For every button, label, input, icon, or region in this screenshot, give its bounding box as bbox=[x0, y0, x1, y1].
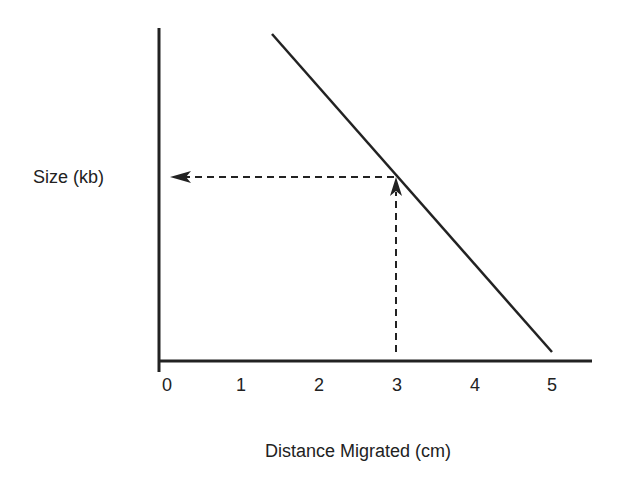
x-tick-2: 2 bbox=[314, 375, 324, 395]
x-tick-1: 1 bbox=[236, 375, 246, 395]
x-tick-3: 3 bbox=[392, 375, 402, 395]
x-axis-label: Distance Migrated (cm) bbox=[265, 441, 451, 461]
standard-curve-line bbox=[272, 34, 552, 352]
x-tick-4: 4 bbox=[470, 375, 480, 395]
chart: 0 1 2 3 4 5 Size (kb) Distance Migrated … bbox=[0, 0, 625, 480]
y-axis-label: Size (kb) bbox=[33, 167, 104, 187]
x-tick-5: 5 bbox=[547, 375, 557, 395]
x-tick-0: 0 bbox=[162, 375, 172, 395]
